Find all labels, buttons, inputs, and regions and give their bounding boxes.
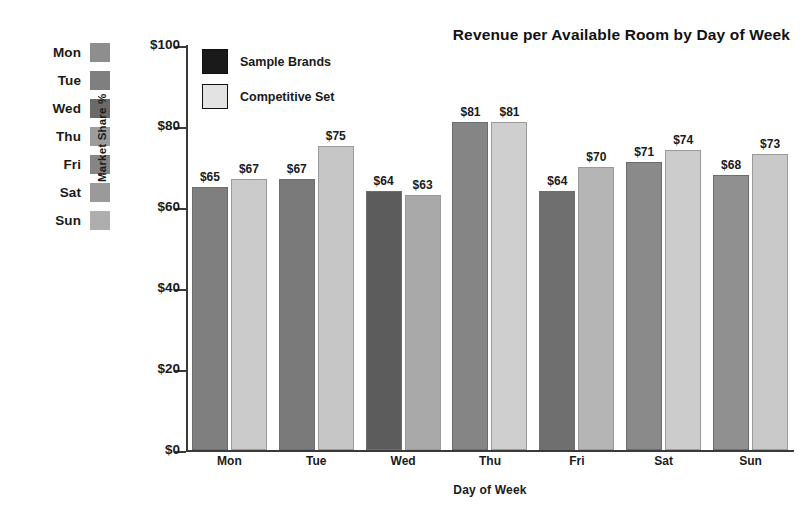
x-axis-line: [186, 450, 794, 452]
bar-wed-series-0[interactable]: $64: [366, 191, 402, 450]
bar-tue-series-1[interactable]: $75: [318, 146, 354, 450]
y-axis-title: Market Share %: [96, 94, 108, 182]
y-tick-label: $20: [157, 361, 180, 376]
bar-group-tue: $67$75Tue: [273, 45, 360, 450]
bar-group-thu: $81$81Thu: [447, 45, 534, 450]
bar-value-label: $71: [634, 145, 654, 159]
bar-wed-series-1[interactable]: $63: [405, 195, 441, 450]
bar-value-label: $70: [586, 150, 606, 164]
bar-mon-series-0[interactable]: $65: [192, 187, 228, 450]
plot-area: $0$20$40$60$80$100 Sample BrandsCompetit…: [186, 45, 794, 452]
bar-group-mon: $65$67Mon: [186, 45, 273, 450]
bar-value-label: $64: [547, 174, 567, 188]
bar-tue-series-0[interactable]: $67: [279, 179, 315, 450]
bar-value-label: $65: [200, 170, 220, 184]
y-tick-label: $0: [165, 442, 180, 457]
bar-value-label: $75: [326, 129, 346, 143]
x-tick-label: Sat: [654, 454, 673, 468]
x-axis-title: Day of Week: [186, 483, 794, 497]
bar-value-label: $73: [760, 137, 780, 151]
bar-sat-series-1[interactable]: $74: [665, 150, 701, 450]
x-tick-label: Thu: [479, 454, 501, 468]
bar-thu-series-0[interactable]: $81: [452, 122, 488, 450]
revenue-bar-chart: Revenue per Available Room by Day of Wee…: [0, 0, 807, 511]
bar-group-sun: $68$73Sun: [707, 45, 794, 450]
bar-fri-series-0[interactable]: $64: [539, 191, 575, 450]
bar-group-fri: $64$70Fri: [533, 45, 620, 450]
bar-sun-series-1[interactable]: $73: [752, 154, 788, 450]
x-tick-label: Tue: [306, 454, 326, 468]
bar-value-label: $74: [673, 133, 693, 147]
y-tick-label: $40: [157, 280, 180, 295]
bar-fri-series-1[interactable]: $70: [578, 167, 614, 451]
y-tick-label: $80: [157, 118, 180, 133]
bar-sat-series-0[interactable]: $71: [626, 162, 662, 450]
bar-value-label: $63: [413, 178, 433, 192]
x-tick-label: Mon: [217, 454, 242, 468]
bar-thu-series-1[interactable]: $81: [491, 122, 527, 450]
bar-value-label: $67: [287, 162, 307, 176]
bar-value-label: $81: [460, 105, 480, 119]
bar-group-wed: $64$63Wed: [360, 45, 447, 450]
bar-group-sat: $71$74Sat: [620, 45, 707, 450]
bar-value-label: $67: [239, 162, 259, 176]
x-tick-label: Fri: [569, 454, 584, 468]
bar-sun-series-0[interactable]: $68: [713, 175, 749, 450]
y-tick-label: $100: [150, 37, 180, 52]
bar-mon-series-1[interactable]: $67: [231, 179, 267, 450]
chart-title: Revenue per Available Room by Day of Wee…: [300, 26, 790, 44]
x-tick-label: Wed: [391, 454, 416, 468]
y-tick-label: $60: [157, 199, 180, 214]
bar-value-label: $64: [374, 174, 394, 188]
bar-value-label: $81: [499, 105, 519, 119]
bar-value-label: $68: [721, 158, 741, 172]
x-tick-label: Sun: [739, 454, 762, 468]
